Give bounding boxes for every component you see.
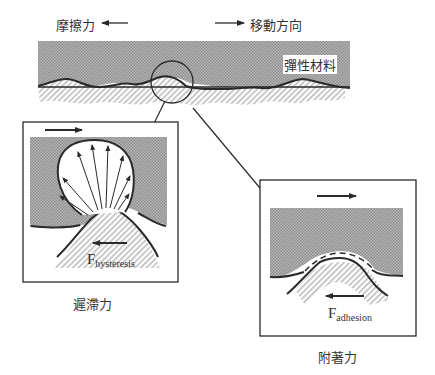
force-subscript: hysteresis — [95, 258, 134, 269]
hysteresis-force-label: Fhysteresis — [87, 251, 135, 269]
elastic-material-label: 彈性材料 — [283, 55, 337, 74]
adhesion-force-label: Fadhesion — [328, 305, 372, 323]
adhesion-caption: 附著力 — [318, 347, 357, 366]
friction-force-label: 摩擦力 — [56, 15, 95, 34]
pointer-to-adhesion — [193, 108, 270, 200]
direction-of-motion-label: 移動方向 — [250, 15, 302, 34]
force-subscript: adhesion — [336, 312, 372, 323]
hysteresis-caption: 遲滯力 — [73, 294, 112, 313]
